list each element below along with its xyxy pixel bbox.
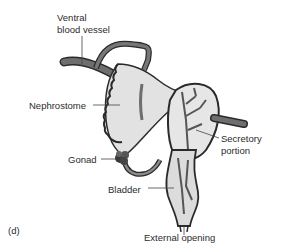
label-gonad: Gonad (68, 154, 97, 165)
secretory-portion (168, 84, 219, 160)
nephridium-drawing (0, 0, 281, 250)
gonad (115, 151, 129, 165)
panel-label: (d) (8, 225, 20, 236)
nephridium-diagram: Ventral blood vessel Nephrostome Gonad B… (0, 0, 281, 250)
label-secretory-line2: portion (221, 145, 250, 156)
label-ventral-line1: Ventral (57, 12, 87, 23)
label-secretory-line1: Secretory (221, 133, 262, 144)
label-ventral-line2: blood vessel (57, 24, 110, 35)
label-bladder: Bladder (108, 184, 141, 195)
label-nephrostome: Nephrostome (29, 100, 86, 111)
label-external-opening: External opening (144, 232, 215, 243)
